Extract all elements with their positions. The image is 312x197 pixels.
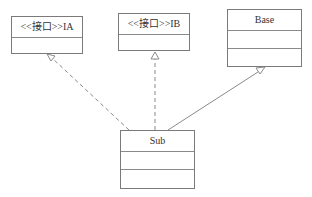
hollow-triangle-arrow-icon — [151, 52, 159, 59]
class-box-sub[interactable]: Sub — [120, 130, 195, 189]
class-methods-sub — [121, 170, 194, 188]
class-name-sub: Sub — [121, 131, 194, 152]
class-name-base: Base — [228, 10, 301, 31]
class-attributes-base — [228, 31, 301, 49]
class-box-ib[interactable]: <<接口>>IB — [118, 13, 190, 51]
class-attributes-ib — [119, 35, 189, 51]
realization-sub-to-ia — [47, 54, 129, 130]
class-name-ib: <<接口>>IB — [119, 14, 189, 35]
class-attributes-ia — [12, 38, 82, 54]
realization-sub-to-ib — [151, 52, 159, 130]
class-box-base[interactable]: Base — [227, 9, 302, 67]
hollow-triangle-arrow-icon — [47, 54, 55, 61]
class-box-ia[interactable]: <<接口>>IA — [11, 16, 83, 54]
class-methods-base — [228, 49, 301, 66]
class-name-ia: <<接口>>IA — [12, 17, 82, 38]
generalization-sub-to-base — [168, 67, 265, 130]
class-attributes-sub — [121, 152, 194, 170]
